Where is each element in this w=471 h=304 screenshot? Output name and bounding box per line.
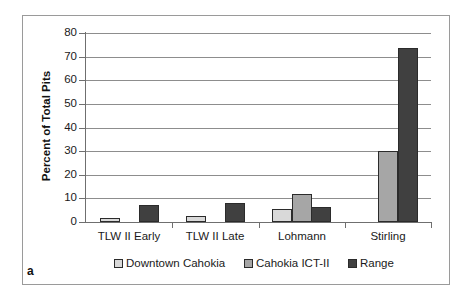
legend-label: Downtown Cahokia: [126, 257, 225, 269]
x-axis-category-label: Stirling: [345, 230, 431, 242]
x-axis-tick-mark: [259, 223, 260, 228]
y-axis-tick-mark: [79, 57, 85, 58]
y-axis-tick-label: 30: [51, 145, 77, 156]
legend-label: Range: [360, 257, 394, 269]
y-axis-tick-mark: [79, 128, 85, 129]
gridline: [86, 104, 431, 105]
gridline: [86, 128, 431, 129]
legend-entry: Downtown Cahokia: [114, 255, 225, 271]
bar: [225, 203, 245, 222]
y-axis-tick-label: 50: [51, 98, 77, 109]
bar: [272, 209, 292, 222]
x-axis-tick-mark: [431, 223, 432, 228]
y-axis-tick-labels: 80706050403020100: [47, 0, 77, 304]
gridline: [86, 57, 431, 58]
bar: [378, 151, 398, 222]
x-axis-category-label: TLW II Early: [86, 230, 172, 242]
legend-swatch-icon: [348, 259, 357, 268]
figure-panel-a: Percent of Total Pits 80706050403020100 …: [0, 0, 471, 304]
legend-swatch-icon: [114, 259, 123, 268]
gridline: [86, 33, 431, 34]
y-axis-tick-mark: [79, 175, 85, 176]
y-axis-tick-label: 20: [51, 169, 77, 180]
bar: [186, 216, 206, 222]
y-axis-tick-label: 80: [51, 27, 77, 38]
y-axis-tick-label: 40: [51, 122, 77, 133]
panel-letter-label: a: [27, 264, 34, 278]
y-axis-tick-label: 0: [51, 216, 77, 227]
y-axis-tick-label: 70: [51, 51, 77, 62]
x-axis-category-label: TLW II Late: [172, 230, 258, 242]
gridline: [86, 80, 431, 81]
y-axis-tick-mark: [79, 151, 85, 152]
bar: [292, 194, 312, 222]
x-axis-tick-mark: [345, 223, 346, 228]
legend-entry: Cahokia ICT-II: [244, 255, 330, 271]
chart-legend: Downtown CahokiaCahokia ICT-IIRange: [86, 255, 396, 273]
legend-entry: Range: [348, 255, 394, 271]
x-axis-tick-mark: [172, 223, 173, 228]
bar: [311, 207, 331, 222]
bar: [100, 218, 120, 222]
y-axis-tick-label: 10: [51, 192, 77, 203]
y-axis-tick-mark: [79, 80, 85, 81]
y-axis-tick-mark: [79, 198, 85, 199]
legend-swatch-icon: [244, 259, 253, 268]
legend-label: Cahokia ICT-II: [256, 257, 330, 269]
x-axis-category-label: Lohmann: [259, 230, 345, 242]
y-axis-tick-label: 60: [51, 74, 77, 85]
y-axis-tick-mark: [79, 104, 85, 105]
bar: [398, 48, 418, 222]
bar: [139, 205, 159, 222]
y-axis-tick-mark: [79, 222, 85, 223]
y-axis-tick-mark: [79, 33, 85, 34]
